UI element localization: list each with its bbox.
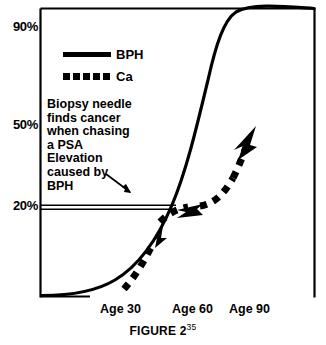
y-axis-tick-50: 50% xyxy=(2,118,38,132)
figure-caption: FIGURE 235 xyxy=(0,322,326,338)
threshold-line-20-percent xyxy=(41,205,176,209)
legend-dashed-line-swatch xyxy=(63,73,111,80)
legend-item-bph: BPH xyxy=(60,48,170,70)
y-axis-tick-90: 90% xyxy=(2,20,38,34)
ca-curve-segment-lower xyxy=(124,243,153,289)
x-axis-tick-age-30: Age 30 xyxy=(100,302,141,316)
ca-arrowhead-2 xyxy=(177,204,203,218)
ca-arrowhead-tip xyxy=(234,126,257,160)
ca-curve-segment-upper xyxy=(200,178,233,206)
y-axis-tick-20: 20% xyxy=(2,199,38,213)
figure-container: 90% 50% 20% Age 30 Age 60 Age 90 BPH Ca … xyxy=(0,0,326,345)
chart-legend: BPH Ca xyxy=(60,48,170,92)
legend-item-ca: Ca xyxy=(60,70,170,92)
x-axis-tick-age-60: Age 60 xyxy=(172,302,213,316)
legend-label-ca: Ca xyxy=(116,70,133,84)
legend-label-bph: BPH xyxy=(116,48,143,62)
legend-solid-line-swatch xyxy=(63,52,111,57)
x-axis-tick-age-90: Age 90 xyxy=(229,302,270,316)
figure-caption-main: FIGURE 2 xyxy=(130,324,187,338)
figure-caption-superscript: 35 xyxy=(187,322,197,332)
annotation-text: Biopsy needle finds cancer when chasing … xyxy=(47,98,139,193)
